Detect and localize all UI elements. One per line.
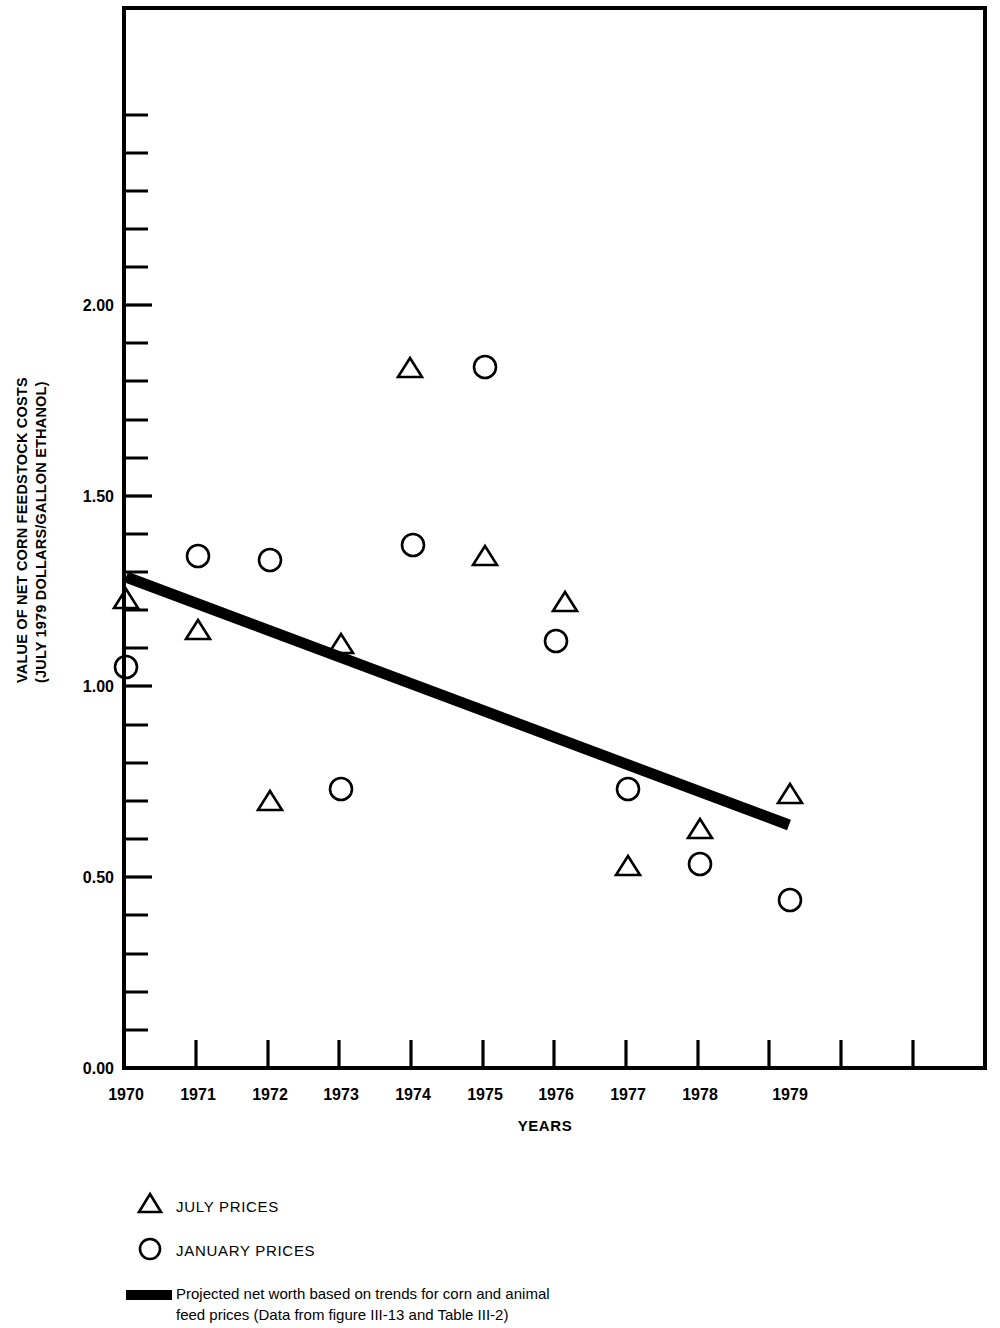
data-point-triangle-1975 — [473, 546, 497, 565]
y-axis-title-line2: (JULY 1979 DOLLARS/GALLON ETHANOL) — [33, 381, 49, 683]
x-axis-title: YEARS — [518, 1117, 573, 1134]
x-tick-label-1977: 1977 — [610, 1086, 646, 1103]
x-tick-label-1972: 1972 — [252, 1086, 288, 1103]
x-tick-label-1971: 1971 — [180, 1086, 216, 1103]
data-point-circle-1971 — [187, 545, 209, 567]
x-tick-label-1976: 1976 — [538, 1086, 574, 1103]
plot-frame — [124, 8, 985, 1068]
y-axis-title-line1: VALUE OF NET CORN FEEDSTOCK COSTS — [14, 377, 30, 683]
chart-canvas: 0.00 0.50 1.00 1.50 2.00 1970 1971 1972 … — [0, 0, 1000, 1328]
data-point-triangle-1977 — [616, 856, 640, 875]
data-point-circle-1973 — [330, 778, 352, 800]
x-tick-label-1974: 1974 — [395, 1086, 431, 1103]
x-tick-label-1975: 1975 — [467, 1086, 503, 1103]
y-tick-label-2: 1.00 — [83, 678, 114, 695]
legend-label-january-prices: JANUARY PRICES — [176, 1242, 315, 1259]
data-point-triangle-1979 — [778, 784, 802, 803]
y-tick-label-4: 2.00 — [83, 297, 114, 314]
y-tick-label-0: 0.00 — [83, 1060, 114, 1077]
legend-note-line2: feed prices (Data from figure III-13 and… — [176, 1306, 508, 1323]
data-point-triangle-1971 — [186, 620, 210, 639]
series-january-prices — [115, 356, 801, 911]
legend-note-line1: Projected net worth based on trends for … — [176, 1285, 550, 1302]
legend-circle-icon — [140, 1239, 160, 1259]
legend-triangle-icon — [139, 1194, 161, 1212]
data-point-circle-1979 — [779, 889, 801, 911]
x-tick-label-1978: 1978 — [682, 1086, 718, 1103]
data-point-circle-1977 — [617, 778, 639, 800]
data-point-triangle-1974 — [398, 358, 422, 377]
data-point-circle-1976 — [545, 630, 567, 652]
data-point-circle-1972 — [259, 549, 281, 571]
x-tick-label-1973: 1973 — [323, 1086, 359, 1103]
data-point-triangle-1976 — [553, 592, 577, 611]
chart-figure: 0.00 0.50 1.00 1.50 2.00 1970 1971 1972 … — [0, 0, 1000, 1328]
data-point-triangle-1978 — [688, 819, 712, 838]
x-tick-label-1979: 1979 — [772, 1086, 808, 1103]
legend-label-july-prices: JULY PRICES — [176, 1198, 279, 1215]
chart-legend: JULY PRICES JANUARY PRICES Projected net… — [126, 1194, 550, 1323]
data-point-triangle-1972 — [258, 791, 282, 810]
data-point-circle-1978 — [689, 853, 711, 875]
trend-line-projected — [126, 577, 789, 825]
x-tick-label-1970: 1970 — [108, 1086, 144, 1103]
data-point-circle-1975 — [474, 356, 496, 378]
y-tick-label-3: 1.50 — [83, 488, 114, 505]
x-axis-ticks — [196, 1040, 913, 1068]
y-tick-label-1: 0.50 — [83, 869, 114, 886]
data-point-circle-1974 — [402, 534, 424, 556]
